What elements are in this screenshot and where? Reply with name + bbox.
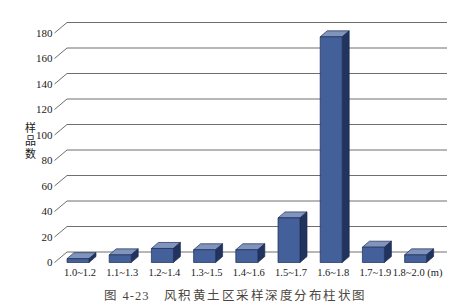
bar-front-face [278,218,300,263]
bar-front-face [67,259,89,263]
chart-canvas: 020406080100120140160180 1.0~1.21.1~1.31… [0,0,471,308]
y-tick-label: 140 [36,78,53,90]
figure-caption-text: 风积黄土区采样深度分布柱状图 [164,289,367,303]
y-tick-label: 60 [42,180,54,192]
gridline-diagonal [55,125,68,136]
bar-front-face [320,37,342,263]
x-tick-label: 1.7~1.9 [359,267,391,278]
y-tick-label: 0 [47,256,53,268]
bar-1.6~1.8 [320,31,349,263]
bar-1.2~1.4 [151,242,180,262]
gridline-diagonal [55,252,68,263]
figure-caption: 图 4-23风积黄土区采样深度分布柱状图 [0,285,471,304]
bar-front-face [109,255,131,263]
bar-series [67,31,434,263]
bar-1.7~1.9 [362,241,391,262]
bar-front-face [362,247,384,262]
bar-1.4~1.6 [236,244,265,263]
gridline-diagonal [55,150,68,161]
bar-front-face [405,255,427,263]
x-tick-label: 1.6~1.8 [317,267,349,278]
x-tick-label: 1.3~1.5 [191,267,223,278]
bar-1.0~1.2 [67,253,96,263]
figure-3d-bar-chart: 020406080100120140160180 1.0~1.21.1~1.31… [0,0,471,308]
bar-front-face [194,250,216,263]
bar-side-face [342,31,349,263]
figure-caption-number: 图 4-23 [104,289,149,303]
gridline-diagonal [55,23,68,34]
y-tick-label: 180 [36,27,53,39]
gridline-diagonal [55,176,68,187]
y-tick-label: 160 [36,52,53,64]
bar-1.1~1.3 [109,249,138,263]
y-axis-title: 样品数 [22,122,38,161]
y-tick-label: 40 [42,205,54,217]
bar-side-face [300,212,307,263]
x-tick-label: 1.8~2.0 (m) [393,267,443,279]
bar-1.8~2.0 [405,249,434,263]
y-axis-tick-labels: 020406080100120140160180 [36,27,53,269]
gridline-diagonal [55,74,68,85]
gridline-diagonal [55,48,68,59]
bar-front-face [151,248,173,262]
x-tick-label: 1.4~1.6 [233,267,265,278]
gridline-diagonal [55,99,68,110]
bar-1.5~1.7 [278,212,307,263]
y-tick-label: 100 [36,129,53,141]
y-tick-label: 80 [42,154,54,166]
x-tick-label: 1.2~1.4 [148,267,181,278]
bar-1.3~1.5 [194,244,223,263]
y-tick-label: 120 [36,103,53,115]
gridline-layer [55,23,448,263]
x-tick-label: 1.1~1.3 [106,267,138,278]
gridline-diagonal [55,227,68,238]
gridline-diagonal [55,201,68,212]
y-tick-label: 20 [42,231,54,243]
x-tick-label: 1.5~1.7 [275,267,307,278]
x-tick-label: 1.0~1.2 [64,267,96,278]
x-axis-tick-labels: 1.0~1.21.1~1.31.2~1.41.3~1.51.4~1.61.5~1… [64,267,443,279]
bar-front-face [236,250,258,263]
